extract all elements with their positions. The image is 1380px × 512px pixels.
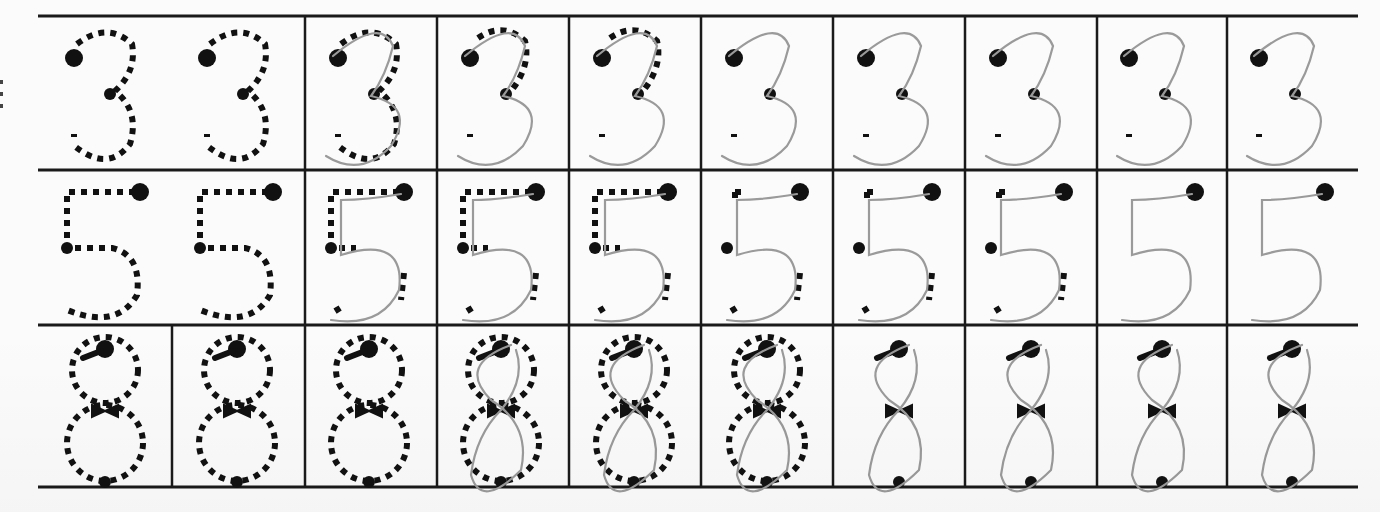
end-mark [71, 134, 77, 137]
practice-cell-digit-8 [199, 337, 275, 488]
corner-dot [194, 242, 206, 254]
practice-cell-digit-8 [1132, 340, 1184, 491]
dotted-guide-lower-loop [67, 405, 143, 481]
corner-dot [853, 242, 865, 254]
start-dot [65, 49, 83, 67]
corner-dot [61, 242, 73, 254]
practice-cell-digit-8 [463, 337, 539, 491]
end-mark [467, 134, 473, 137]
end-dot [363, 476, 375, 488]
pencil-trace-stroke [869, 345, 921, 491]
pencil-trace-stroke [590, 33, 664, 165]
pencil-trace-stroke [727, 194, 797, 321]
practice-cell-digit-5 [721, 183, 809, 321]
start-dot [527, 183, 545, 201]
dotted-guide-lower-loop [729, 405, 805, 481]
crossing-bowtie-mark [92, 405, 118, 417]
pencil-trace-stroke [331, 194, 401, 321]
end-mark [995, 134, 1001, 137]
practice-cell-digit-3 [1117, 33, 1191, 165]
start-dot [198, 49, 216, 67]
dotted-guide-path [336, 33, 397, 160]
pencil-trace-stroke [991, 194, 1061, 321]
dotted-guide-lower-loop [463, 405, 539, 481]
pencil-trace-stroke [1262, 345, 1314, 491]
practice-cell-digit-5 [1252, 183, 1334, 321]
practice-cell-digit-3 [854, 33, 928, 165]
pencil-trace-stroke [1117, 33, 1191, 165]
end-mark [204, 134, 210, 137]
pencil-trace-stroke [471, 345, 523, 491]
dotted-guide-path [205, 33, 266, 160]
pencil-trace-stroke [854, 33, 928, 165]
corner-dot [457, 242, 469, 254]
end-mark [599, 134, 605, 137]
end-dot [99, 476, 111, 488]
practice-cell-digit-5 [61, 183, 149, 317]
start-arrow-tail [347, 351, 365, 358]
practice-cell-digit-3 [722, 33, 796, 165]
end-mark [1256, 134, 1262, 137]
practice-cell-digit-5 [457, 183, 545, 321]
pencil-trace-stroke [604, 345, 656, 491]
practice-cell-digit-3 [458, 30, 532, 165]
dotted-guide-path [200, 192, 271, 317]
start-dot [1055, 183, 1073, 201]
end-mark [863, 134, 869, 137]
practice-cell-digit-5 [325, 183, 413, 321]
start-dot [264, 183, 282, 201]
pencil-trace-stroke [595, 194, 665, 321]
end-dot [231, 476, 243, 488]
start-dot [923, 183, 941, 201]
practice-cell-digit-3 [326, 33, 400, 165]
pencil-trace-stroke [458, 33, 532, 165]
dotted-guide-path [610, 30, 658, 91]
start-dot [659, 183, 677, 201]
start-dot [791, 183, 809, 201]
start-dot [131, 183, 149, 201]
start-arrow-tail [215, 351, 233, 358]
worksheet-grid [0, 0, 1380, 512]
corner-dot [589, 242, 601, 254]
start-dot [395, 183, 413, 201]
practice-cell-digit-3 [1247, 33, 1321, 165]
corner-dot [985, 242, 997, 254]
practice-cell-digit-5 [1122, 183, 1204, 321]
crossing-bowtie-mark [356, 405, 382, 417]
pencil-trace-stroke [1252, 194, 1322, 321]
pencil-trace-stroke [1247, 33, 1321, 165]
dotted-guide-path [67, 192, 138, 317]
pencil-trace-stroke [1001, 345, 1053, 491]
practice-cell-digit-5 [589, 183, 677, 321]
pencil-trace-stroke [1132, 345, 1184, 491]
end-mark [335, 134, 341, 137]
pencil-trace-stroke [986, 33, 1060, 165]
practice-cell-digit-8 [1262, 340, 1314, 491]
middle-dot [104, 88, 116, 100]
start-arrow-tail [83, 351, 101, 358]
practice-cell-digit-5 [853, 183, 941, 321]
practice-cell-digit-3 [198, 33, 266, 160]
corner-dot [325, 242, 337, 254]
tracing-worksheet [0, 0, 1380, 512]
pencil-trace-stroke [859, 194, 929, 321]
start-dot [1316, 183, 1334, 201]
practice-cell-digit-8 [729, 337, 805, 491]
practice-cell-digit-8 [331, 337, 407, 488]
dotted-guide-lower-loop [199, 405, 275, 481]
practice-cell-digit-8 [596, 337, 672, 491]
pencil-trace-stroke [737, 345, 789, 491]
practice-cell-digit-5 [194, 183, 282, 317]
practice-cell-digit-8 [1001, 340, 1053, 491]
end-mark [1126, 134, 1132, 137]
practice-cell-digit-8 [67, 337, 143, 488]
dotted-guide-path [478, 30, 526, 91]
binding-edge-marks [0, 80, 6, 120]
practice-cell-digit-8 [869, 340, 921, 491]
crossing-bowtie-mark [224, 405, 250, 417]
middle-dot [237, 88, 249, 100]
practice-cell-digit-3 [590, 30, 664, 165]
practice-cell-digit-5 [985, 183, 1073, 321]
practice-cell-digit-3 [986, 33, 1060, 165]
dotted-guide-path [72, 33, 133, 160]
